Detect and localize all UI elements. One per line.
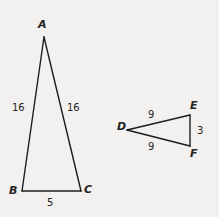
side-length-bc: 5 [47, 198, 53, 208]
side-length-ab: 16 [12, 103, 25, 113]
side-length-ef: 3 [197, 126, 203, 136]
triangle-def [127, 115, 190, 146]
side-length-df: 9 [148, 142, 154, 152]
vertex-label-d: D [117, 121, 126, 132]
geometry-figure: A B C 16 16 5 D E F 9 9 3 [0, 0, 219, 217]
segment-ac [44, 37, 81, 191]
segment-de [127, 115, 190, 130]
vertex-label-e: E [190, 100, 198, 111]
segment-ab [22, 37, 44, 191]
vertex-label-f: F [190, 148, 198, 159]
geometry-figure-svg [0, 0, 219, 217]
triangle-abc [22, 37, 81, 191]
vertex-label-a: A [38, 19, 47, 30]
side-length-ac: 16 [67, 103, 80, 113]
vertex-label-c: C [84, 184, 92, 195]
segment-df [127, 130, 190, 146]
vertex-label-b: B [9, 185, 17, 196]
side-length-de: 9 [148, 110, 154, 120]
